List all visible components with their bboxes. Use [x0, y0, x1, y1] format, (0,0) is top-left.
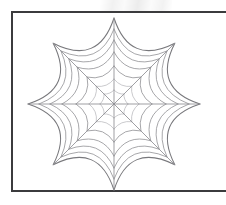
drawing-canvas — [0, 0, 226, 205]
drawing-frame-border — [11, 11, 226, 192]
